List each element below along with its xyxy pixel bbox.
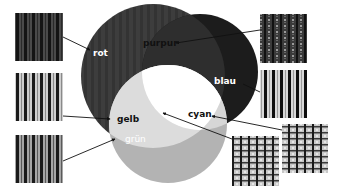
blau-swatch xyxy=(260,70,307,118)
venn-color-diagram: rot purpur blau gelb cyan grün xyxy=(0,0,339,189)
label-gelb: gelb xyxy=(117,114,140,124)
gruen-swatch xyxy=(15,135,63,183)
gruen-arrow xyxy=(63,139,115,161)
rot-arrow xyxy=(63,37,90,50)
weiss-swatch xyxy=(232,136,279,186)
label-rot: rot xyxy=(93,48,109,58)
rot-swatch xyxy=(15,13,63,61)
purpur-swatch xyxy=(260,14,307,63)
gelb-swatch xyxy=(15,73,63,121)
cyan-swatch xyxy=(282,124,328,173)
label-purpur: purpur xyxy=(143,38,178,48)
label-blau: blau xyxy=(214,76,236,86)
label-gruen: grün xyxy=(125,134,146,144)
label-cyan: cyan xyxy=(188,109,212,119)
